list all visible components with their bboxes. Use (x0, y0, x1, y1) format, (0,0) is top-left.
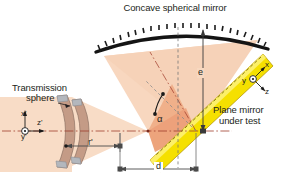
dimension-d-tick-right (194, 167, 199, 172)
dimension-r-prime-origin-dot (64, 144, 68, 148)
left-axis-y-label: y' (21, 133, 27, 142)
right-axis-y-label: y (242, 77, 246, 86)
plane-mirror-label-line2: under test (219, 116, 260, 126)
dimension-e-label: e (197, 68, 204, 78)
right-axis-z-label: z (265, 88, 269, 97)
transmission-sphere-front-rim-top (72, 99, 82, 106)
transmission-sphere-label-line2: sphere (26, 93, 54, 103)
optical-setup-diagram: Concave spherical mirror Transmission sp… (0, 0, 286, 181)
angle-alpha-label: α (157, 114, 163, 124)
dimension-e-arrow-top (201, 29, 206, 36)
plane-mirror-label-line1: Plane mirror (213, 105, 264, 115)
transmission-sphere-rear-rim-bottom (56, 161, 67, 168)
dimension-e-tick-bottom (200, 129, 206, 134)
transmission-sphere-front-rim-bottom (71, 157, 81, 164)
dimension-r-prime-tick-right (118, 144, 123, 149)
right-axis-y-dot (252, 78, 254, 80)
dimension-d-tick-left (118, 167, 123, 172)
right-axis-x-label: x (265, 61, 269, 70)
concave-mirror-label: Concave spherical mirror (110, 3, 240, 13)
transmission-sphere-rear-rim-top (57, 95, 68, 102)
dimension-r-prime-label: r' (88, 138, 93, 148)
angle-alpha-arc-endpoint-upper (161, 92, 165, 96)
left-axis-z-label: z' (37, 119, 43, 128)
left-axis-x-label: x' (21, 110, 27, 119)
dimension-d-label: d (154, 162, 163, 172)
focus-point-marker (147, 130, 150, 133)
